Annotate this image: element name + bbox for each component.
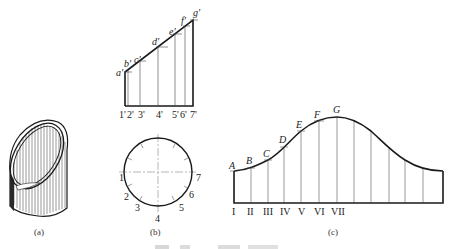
label-2: 2 bbox=[124, 191, 129, 202]
label-1: 1 bbox=[119, 172, 124, 183]
label-VI: VI bbox=[314, 206, 325, 217]
label-I: I bbox=[232, 206, 235, 217]
label-f-prime: f' bbox=[181, 15, 187, 26]
label-D: D bbox=[278, 134, 287, 145]
panel-b-top-view: 1 2 3 4 5 6 7 bbox=[119, 134, 201, 224]
label-7-prime: 7' bbox=[190, 109, 197, 120]
label-G: G bbox=[333, 104, 340, 115]
label-a-prime: a' bbox=[116, 67, 124, 78]
label-6-prime: 6' bbox=[180, 109, 187, 120]
label-C: C bbox=[263, 148, 270, 159]
label-B: B bbox=[246, 155, 252, 166]
label-VII: VII bbox=[331, 206, 345, 217]
label-b-prime: b' bbox=[124, 58, 132, 69]
figure-caption-cutoff bbox=[155, 245, 278, 249]
label-3: 3 bbox=[135, 202, 140, 213]
figure-canvas: (a) a' b' c' d' e' f' g' 1' 2' bbox=[0, 0, 449, 249]
label-II: II bbox=[247, 206, 254, 217]
label-2-prime: 2' bbox=[127, 109, 134, 120]
caption-b: (b) bbox=[150, 227, 161, 237]
label-e-prime: e' bbox=[169, 26, 176, 37]
label-5: 5 bbox=[179, 202, 184, 213]
panel-b-front-view: a' b' c' d' e' f' g' 1' 2' 3' 4' 5' 6' 7… bbox=[116, 7, 201, 120]
label-E: E bbox=[295, 119, 302, 130]
panel-c-development: A B C D E F G I II III IV V VI VII bbox=[228, 104, 443, 217]
label-V: V bbox=[298, 206, 306, 217]
label-IV: IV bbox=[280, 206, 291, 217]
label-1-prime: 1' bbox=[119, 109, 126, 120]
caption-c: (c) bbox=[328, 227, 338, 237]
label-c-prime: c' bbox=[134, 54, 141, 65]
label-3-prime: 3' bbox=[138, 109, 145, 120]
panel-a-cylinder bbox=[0, 114, 75, 217]
label-g-prime: g' bbox=[193, 7, 201, 18]
label-4: 4 bbox=[155, 213, 160, 224]
label-d-prime: d' bbox=[152, 36, 160, 47]
label-6: 6 bbox=[189, 189, 194, 200]
label-5-prime: 5' bbox=[172, 109, 179, 120]
caption-a: (a) bbox=[34, 227, 44, 237]
label-4-prime: 4' bbox=[156, 109, 163, 120]
label-7: 7 bbox=[196, 172, 201, 183]
label-A: A bbox=[228, 160, 236, 171]
label-III: III bbox=[263, 206, 273, 217]
label-F: F bbox=[313, 109, 321, 120]
